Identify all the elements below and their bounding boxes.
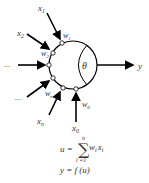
formula: u = ∑ n i =1 wixi y = f (u) <box>59 135 104 175</box>
threshold-label: θ <box>82 60 87 71</box>
input-x2-label: x2 <box>16 28 24 39</box>
weight-w0-label: w0 <box>82 100 90 110</box>
sum-upper: n <box>82 135 85 141</box>
sum-lower: i =1 <box>76 157 86 163</box>
input-x0-label: x0 <box>71 123 79 134</box>
input-arrows <box>18 13 76 122</box>
input-ellipsis-2: ... <box>15 93 21 102</box>
synapses <box>47 41 78 91</box>
sum-lhs: u = <box>60 144 73 154</box>
weight-w1-label: w1 <box>63 31 71 41</box>
sum-term: wixi <box>89 142 104 153</box>
input-ellipsis-1: ... <box>4 60 10 69</box>
input-xn-label: xn <box>36 116 44 127</box>
input-x1-label: x1 <box>37 3 45 14</box>
output-y-label: y <box>137 61 142 71</box>
neuron-body <box>49 41 97 89</box>
weight-wn-label: wn <box>45 89 53 99</box>
activation-formula: y = f (u) <box>59 165 90 175</box>
weight-w2-label: w2 <box>41 49 49 59</box>
neuron-diagram: x1 x2 ... ... xn x0 w1 w2 wn w0 θ y u = … <box>0 0 149 183</box>
